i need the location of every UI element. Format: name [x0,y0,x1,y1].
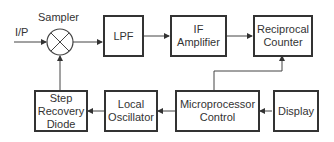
if-amplifier-block: IF Amplifier [170,15,227,57]
lpf-label: LPF [113,30,133,43]
sampler-label: Sampler [38,11,79,23]
mpc-label-1: Microprocessor [180,98,255,111]
step-recovery-diode-block: Step Recovery Diode [34,90,88,132]
display-label: Display [278,105,314,118]
srd-label-3: Diode [47,118,76,131]
display-block: Display [273,90,319,132]
lo-label-2: Oscillator [108,111,154,124]
lpf-block: LPF [103,15,144,57]
srd-label-2: Recovery [38,105,84,118]
counter-label-2: Counter [263,36,302,49]
lo-label-1: Local [118,98,144,111]
if-amp-label-2: Amplifier [177,36,220,49]
local-oscillator-block: Local Oscillator [104,90,158,132]
if-amp-label-1: IF [194,23,204,36]
mpc-label-2: Control [200,111,235,124]
input-label: I/P [15,26,28,38]
counter-label-1: Reciprocal [257,23,309,36]
reciprocal-counter-block: Reciprocal Counter [253,15,313,57]
srd-label-1: Step [50,92,73,105]
microprocessor-control-block: Microprocessor Control [175,90,260,132]
